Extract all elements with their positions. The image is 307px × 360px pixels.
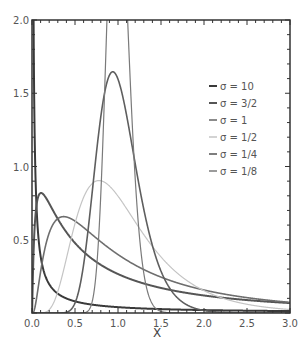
x-tick-label: 0.0 [24,318,40,329]
legend-item: σ = 10 [209,81,254,92]
y-tick-label: 1.0 [13,162,29,173]
legend-label: σ = 1/2 [220,132,257,143]
x-tick-label: 2.5 [239,318,255,329]
series-line-2 [32,217,290,313]
legend: σ = 10σ = 3/2σ = 1σ = 1/2σ = 1/4σ = 1/8 [209,81,257,177]
legend-item: σ = 1/8 [209,166,257,177]
legend-item: σ = 1/2 [209,132,257,143]
legend-label: σ = 1 [220,115,247,126]
x-tick-label: 0.5 [67,318,83,329]
x-tick-label: 2.0 [196,318,212,329]
legend-label: σ = 1/4 [220,149,257,160]
series-line-3 [32,181,290,313]
legend-item: σ = 1 [209,115,247,126]
x-tick-label: 3.0 [282,318,298,329]
series-line-1 [32,193,290,313]
legend-label: σ = 1/8 [220,166,257,177]
legend-item: σ = 3/2 [209,98,257,109]
legend-label: σ = 3/2 [220,98,257,109]
legend-item: σ = 1/4 [209,149,257,160]
y-tick-label: 2.0 [13,15,29,26]
x-axis-label: X [153,326,161,340]
y-tick-label: 0.5 [13,235,29,246]
x-tick-label: 1.0 [110,318,126,329]
legend-label: σ = 10 [220,81,254,92]
lognormal-chart: 0.00.51.01.52.02.53.00.51.01.52.0 X σ = … [0,0,307,360]
y-tick-label: 1.5 [13,88,29,99]
